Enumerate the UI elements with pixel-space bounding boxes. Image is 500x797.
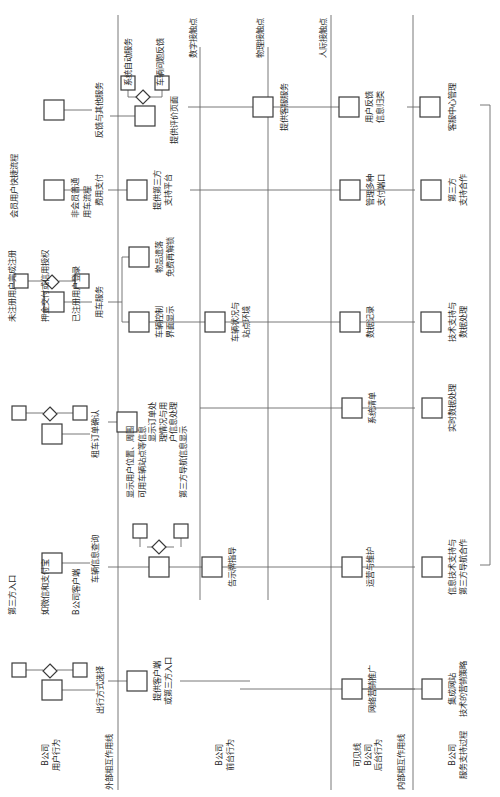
support-step-box (422, 679, 442, 699)
digital-step-label-line: 提供客户端 (152, 661, 162, 701)
physical-step-label-line: 车辆状况与 (230, 302, 240, 342)
option-label: 押金交付或信用授权 (40, 250, 50, 322)
digital-step-label: 车辆控制界面显示 (154, 306, 175, 338)
digital-step-label-line: 户信息处理 (168, 402, 178, 442)
backstage-step-box (340, 312, 360, 332)
physical-touchpoint-label: 物理接触点 (255, 18, 265, 58)
option-label-line: 车辆问题反馈 (155, 38, 165, 86)
physical-step-label: 车辆状况与站点环境 (230, 302, 251, 342)
option-box (12, 406, 26, 420)
backstage-step-label-line: 数据记录 (365, 306, 375, 338)
support-step-label-line: 集成网站 (447, 673, 457, 705)
digital-touchpoint-label: 数字接触点 (188, 18, 198, 58)
user-decision-diamond (43, 664, 57, 678)
physical-touchpoint-label-line: 物理接触点 (255, 18, 265, 58)
digital-step-label-line: 或第三方入口 (163, 657, 173, 705)
support-step-label-line: 实时数据处理 (447, 384, 457, 432)
option-box (12, 663, 26, 677)
lane-backstage-line: 可见线 (352, 743, 362, 767)
human-touchpoint-label-line: 人际接触点 (318, 18, 328, 58)
support-step-label-line: 第三方导航合作 (458, 539, 468, 595)
backstage-step-label-line: 管理多种 (365, 174, 375, 206)
backstage-step-label-line: 网络营销推广 (367, 665, 377, 713)
option-label-line: 押金交付或信用授权 (40, 250, 50, 322)
digital-step-label: 显示订单处理情况与用户信息处理 (147, 402, 178, 442)
lane-support-line: 服务支持过程 (458, 731, 468, 779)
backstage-step-label: 网络营销推广 (367, 665, 377, 713)
user-step-label: 车辆信息查询 (90, 535, 100, 583)
option-label-line: 非会员普通 (70, 178, 80, 218)
option-label-line: 如微信和支付宝 (40, 559, 50, 615)
digital-step-label-line: 物品遗落 (154, 241, 164, 273)
user-step-label: 反馈与其他服务 (94, 82, 104, 138)
digital-step-label-line: 界面显示 (165, 306, 175, 338)
digital-decision-diamond (152, 540, 166, 554)
backstage-step-box (339, 97, 359, 117)
support-step-label-line: 信息技术支持与 (447, 539, 457, 595)
option-label: B公司客户端 (71, 569, 81, 615)
digital-step-label: 提供第三方支持平台 (152, 170, 173, 210)
support-step-label: 集成网站技术的营销策略 (447, 660, 468, 717)
physical-step-box (205, 312, 225, 332)
user-step-label-line: 费用支付 (94, 174, 104, 206)
option-label: 如微信和支付宝 (40, 559, 50, 615)
digital-step-label-line: 支持平台 (163, 174, 173, 206)
support-step-label: 技术支持与数据处理 (447, 302, 468, 342)
user-step-box (42, 424, 62, 444)
digital-step-label-line: 提供评价页面 (169, 96, 179, 144)
option-label: 显示用户位置、周围 (125, 426, 135, 498)
lane-backstage-line: B公司 (363, 744, 373, 766)
option-label: 系统自动服务 (123, 38, 133, 86)
option-label: 已注册用户登录 (71, 266, 81, 322)
digital-step-box (135, 106, 155, 126)
option-box (174, 524, 188, 538)
physical-step-box (253, 97, 273, 117)
option-label-line: 第三方导航信息显示 (178, 426, 188, 498)
digital-step-label-line: 免费再解锁 (165, 237, 175, 277)
option-label-line: 未注册用户完成注册 (7, 250, 17, 322)
support-step-label-line: 客服中心管理 (447, 83, 457, 131)
option-label-line: 已注册用户登录 (71, 266, 81, 322)
support-step-label-line: 技术的营销策略 (458, 660, 468, 717)
human-touchpoint-label: 人际接触点 (318, 18, 328, 58)
digital-step-box (127, 671, 147, 691)
digital-step-box (129, 312, 149, 332)
lane-user-behavior-line: 用户行为 (51, 739, 61, 771)
lane-support: B公司服务支持过程 (447, 731, 468, 779)
digital-step-box (149, 557, 169, 577)
digital-step-label: 提供评价页面 (169, 96, 179, 144)
physical-step-label-line: 站点环境 (241, 306, 251, 338)
user-step-label: 用车服务 (94, 286, 104, 318)
digital-step-label: 提供客户端或第三方入口 (152, 657, 173, 705)
support-step-label: 客服中心管理 (447, 83, 457, 131)
support-step-label: 第三方支持合作 (447, 174, 468, 206)
user-step-label: 租车订单确认 (90, 410, 100, 458)
option-label-line: 显示用户位置、周围 (125, 426, 135, 498)
backstage-step-box (340, 180, 360, 200)
support-step-label-line: 第三方 (447, 178, 457, 202)
lane-frontstage: B公司前台行为 (214, 739, 235, 771)
backstage-step-label: 用户反馈信息归类 (364, 91, 385, 123)
lane-user-behavior-line: B公司 (40, 744, 50, 766)
backstage-step-label: 系统清单 (367, 392, 377, 424)
digital-step-box (127, 180, 147, 200)
digital-step-box (129, 247, 149, 267)
support-step-box (420, 97, 440, 117)
option-label: 第三方导航信息显示 (178, 426, 188, 498)
user-step-box (44, 180, 64, 200)
backstage-step-label: 运营与维护 (365, 547, 375, 587)
backstage-step-label-line: 系统清单 (367, 392, 377, 424)
backstage-step-label: 数据记录 (365, 306, 375, 338)
option-label: 可用车辆站点等信息 (137, 426, 147, 498)
option-label: 会员用户快捷流程 (9, 154, 19, 218)
option-label: 非会员普通 (70, 178, 80, 218)
support-step-label-line: 数据处理 (458, 306, 468, 338)
option-label: 第三方入口 (7, 575, 17, 615)
external-interaction-label: 外部相互作用线 (104, 734, 114, 790)
user-step-box (44, 100, 64, 120)
option-box (73, 406, 87, 420)
support-step-label: 实时数据处理 (447, 384, 457, 432)
user-step-label-line: 出行方式选择 (95, 666, 105, 714)
physical-step-box (202, 557, 222, 577)
lane-user-behavior: B公司用户行为 (40, 739, 61, 771)
